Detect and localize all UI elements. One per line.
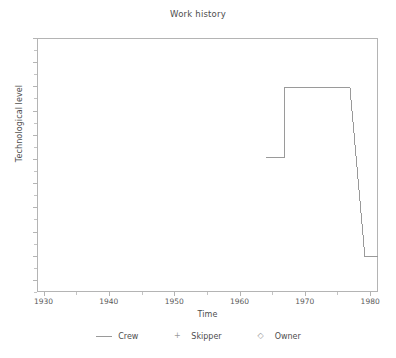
chart-legend: Crew+Skipper◇Owner <box>0 331 396 341</box>
y-axis-label: Technological level <box>15 64 24 184</box>
y-tick-minor <box>34 292 37 293</box>
x-tick-label: 1950 <box>165 297 184 306</box>
x-tick-minor <box>76 292 77 295</box>
legend-item-owner[interactable]: ◇Owner <box>252 331 301 341</box>
x-tick-minor <box>207 292 208 295</box>
x-axis-label: Time <box>37 310 378 319</box>
x-tick-label: 1970 <box>295 297 314 306</box>
legend-label: Skipper <box>191 332 221 341</box>
legend-label: Crew <box>118 332 138 341</box>
x-tick-major <box>109 292 110 296</box>
x-tick-label: 1940 <box>99 297 118 306</box>
x-tick-label: 1930 <box>34 297 53 306</box>
x-tick-minor <box>272 292 273 295</box>
legend-line-icon <box>95 331 113 341</box>
legend-marker-icon: ◇ <box>252 331 270 341</box>
chart-figure: Work history Technological level 1930194… <box>0 0 396 358</box>
legend-label: Owner <box>275 332 301 341</box>
x-tick-minor <box>337 292 338 295</box>
x-tick-minor <box>142 292 143 295</box>
legend-dash <box>96 336 112 337</box>
x-tick-label: 1960 <box>230 297 249 306</box>
x-tick-major <box>44 292 45 296</box>
x-tick-major <box>305 292 306 296</box>
x-tick-major <box>240 292 241 296</box>
x-tick-label: 1980 <box>361 297 380 306</box>
x-tick-major <box>174 292 175 296</box>
data-series-layer <box>37 38 378 292</box>
chart-title: Work history <box>0 9 396 19</box>
series-line-crew <box>266 87 378 257</box>
legend-marker-icon: + <box>168 331 186 341</box>
x-tick-major <box>370 292 371 296</box>
legend-item-skipper[interactable]: +Skipper <box>168 331 221 341</box>
legend-item-crew[interactable]: Crew <box>95 331 138 341</box>
plot-area <box>37 38 378 292</box>
